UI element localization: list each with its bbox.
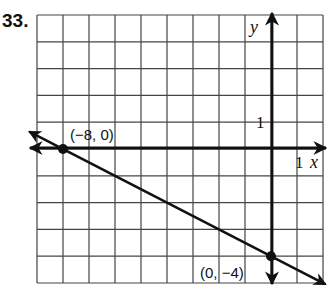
x-tick-label: 1 [295,153,304,172]
point-label-y-intercept: (0, −4) [200,264,244,281]
point-label-x-intercept: (−8, 0) [70,126,114,143]
y-axis-label: y [248,17,258,37]
graph-line [29,132,325,285]
y-tick-label: 1 [256,113,265,132]
data-point [58,144,68,154]
x-axis-label: x [309,152,318,172]
data-point [266,251,276,261]
coordinate-graph: y x 1 1 (−8, 0) (0, −4) [0,0,331,285]
